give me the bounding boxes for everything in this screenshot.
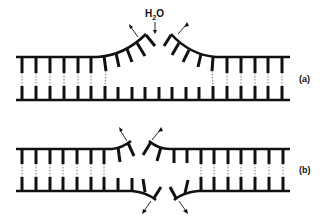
top-backbone-right-b [149, 141, 290, 149]
arrows-a [129, 22, 189, 37]
panel-label-a: (a) [299, 74, 310, 84]
base-pairs-right-a [212, 57, 282, 100]
base-pairs-right-b [201, 149, 283, 191]
panel-a [16, 22, 290, 100]
arrows-b [119, 127, 188, 214]
panel-b [16, 127, 290, 214]
panel-label-b: (b) [299, 165, 311, 175]
unpaired-bases-top-right-b [143, 142, 187, 163]
cleavage-arrow-bottom-right-b [179, 201, 186, 211]
water-label: H2O [145, 8, 164, 21]
water-o: O [156, 8, 164, 19]
hydrogen-bonds-left-a [22, 71, 106, 86]
hydrogen-bonds-right-a [212, 71, 282, 86]
top-backbone-left-a [16, 34, 146, 57]
hydrogen-bonds-right-b [201, 164, 283, 177]
diagram-svg [0, 0, 323, 223]
top-backbone-left-b [16, 141, 131, 149]
cleavage-arrow-top-left-b [120, 130, 127, 141]
cleavage-arrow-bottom-left-b [144, 201, 151, 211]
bottom-backbone-right-b [174, 191, 290, 200]
unpaired-bases-bottom-a [118, 87, 199, 100]
hydrogen-bonds-left-b [22, 164, 104, 177]
dna-cleavage-diagram: H2O (a) (b) [0, 0, 323, 223]
unpaired-bases-bottom-left-b [118, 178, 161, 198]
bottom-backbone-left-b [16, 191, 156, 200]
base-pairs-left-a [22, 56, 106, 100]
